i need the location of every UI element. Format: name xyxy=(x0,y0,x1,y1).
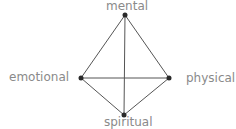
label-emotional: emotional xyxy=(9,71,69,84)
label-spiritual: spiritual xyxy=(104,116,146,129)
label-mental: mental xyxy=(106,0,144,13)
edge-mental-spiritual xyxy=(124,15,125,115)
edge-physical-spiritual xyxy=(124,78,169,115)
edge-mental-emotional xyxy=(81,15,125,78)
label-physical: physical xyxy=(186,72,235,85)
diagram-canvas xyxy=(0,0,236,129)
vertex-physical xyxy=(167,76,172,81)
vertex-emotional xyxy=(79,76,84,81)
vertex-mental xyxy=(123,13,128,18)
edge-mental-physical xyxy=(125,15,169,78)
tetrahedron-diagram: mental emotional physical spiritual xyxy=(0,0,236,129)
edge-emotional-spiritual xyxy=(81,78,124,115)
